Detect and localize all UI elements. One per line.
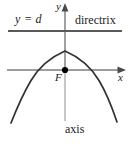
focus-point-dot <box>62 67 68 73</box>
directrix-equation-label: y = d <box>15 13 42 25</box>
parabola-curve <box>11 51 117 123</box>
y-axis-label: y <box>56 1 61 12</box>
directrix-label: directrix <box>75 14 116 26</box>
parabola-figure: y = d directrix y x F axis <box>0 0 131 146</box>
focus-label: F <box>55 72 62 83</box>
y-axis-arrowhead-icon <box>62 3 69 12</box>
axis-of-symmetry-label: axis <box>65 123 84 135</box>
x-axis-label: x <box>118 72 123 83</box>
